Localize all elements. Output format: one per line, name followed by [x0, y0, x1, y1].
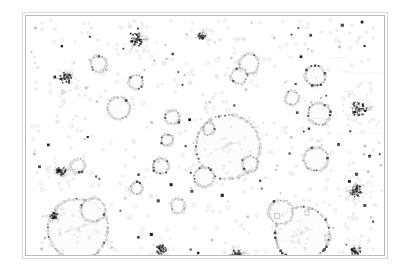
- ring-cluster: [90, 55, 108, 73]
- ring-cluster: [152, 157, 170, 174]
- annotation-label: ······ ··: [342, 71, 352, 74]
- ring-cluster: [302, 146, 329, 172]
- ring-cluster: [307, 102, 332, 126]
- ring-cluster: [127, 74, 143, 90]
- ring-cluster: [284, 89, 300, 106]
- annotation-label: ········ ······: [330, 57, 347, 60]
- ring-cluster: [129, 181, 144, 196]
- annotation-label: ····· ····: [352, 185, 363, 188]
- ring-cluster: [69, 158, 86, 175]
- annotation-label: ···· ······ ····: [348, 170, 366, 173]
- ring-cluster: [303, 65, 326, 87]
- ring-cluster: [171, 198, 186, 215]
- ring-cluster: [160, 133, 174, 147]
- starburst-cluster: [191, 28, 214, 45]
- figure-canvas: ······· ·········· ······ ······ ·······…: [0, 0, 414, 274]
- scatter-plot-graphic: [26, 16, 384, 255]
- starburst-cluster: [116, 22, 158, 60]
- plot-surface: [26, 16, 384, 255]
- plot-area: [25, 15, 385, 256]
- annotation-label: ······· ·········· ··: [312, 118, 337, 121]
- ring-cluster: [203, 121, 216, 136]
- starburst-cluster: [221, 241, 255, 255]
- starburst-cluster: [148, 237, 175, 255]
- starburst-cluster: [335, 90, 380, 128]
